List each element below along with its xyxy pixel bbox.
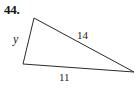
triangle-shape bbox=[0, 0, 140, 90]
side-label-left: y bbox=[13, 33, 18, 45]
side-label-base: 11 bbox=[59, 71, 70, 83]
geometry-figure: 44. y 14 11 bbox=[0, 0, 140, 90]
triangle-outline bbox=[23, 18, 134, 72]
side-label-hypotenuse: 14 bbox=[77, 29, 88, 41]
